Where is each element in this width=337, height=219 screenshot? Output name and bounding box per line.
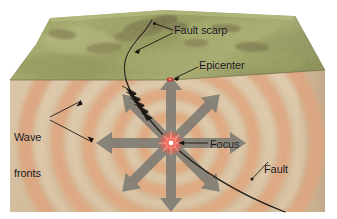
label-wave-fronts-line2: fronts [14, 167, 41, 179]
earthquake-block-diagram [0, 0, 337, 219]
label-fault: Fault [264, 163, 288, 175]
label-epicenter: Epicenter [199, 59, 245, 71]
label-wave-fronts: Wave fronts [14, 107, 41, 203]
label-focus: Focus [210, 138, 239, 150]
label-fault-scarp: Fault scarp [174, 24, 227, 36]
figure-canvas: Fault scarp Epicenter Wave fronts Focus … [0, 0, 337, 219]
epicenter-marker [167, 77, 174, 81]
label-wave-fronts-line1: Wave [14, 131, 41, 143]
